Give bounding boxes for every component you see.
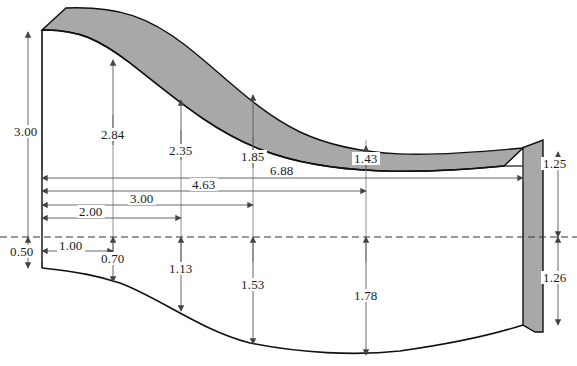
dim-label-1.25: 1.25 — [541, 157, 569, 170]
dim-label-2.35: 2.35 — [167, 144, 195, 157]
dim-label-1.85: 1.85 — [239, 150, 267, 163]
horizontal-dims-group — [42, 178, 523, 251]
dim-label-1.26: 1.26 — [541, 271, 569, 284]
dim-label-0.50: 0.50 — [8, 245, 36, 258]
body-outline-group — [42, 30, 523, 353]
dim-label-h-2.00: 2.00 — [77, 205, 105, 218]
dim-label-2.84: 2.84 — [99, 128, 127, 141]
dim-label-3.00: 3.00 — [12, 125, 40, 138]
dim-label-h-4.63: 4.63 — [190, 178, 218, 191]
dim-label-1.43: 1.43 — [352, 152, 380, 165]
dim-label-h-6.88: 6.88 — [268, 164, 296, 177]
lower-surface-curve — [42, 268, 523, 353]
drawing-svg — [0, 0, 577, 366]
dim-label-1.53: 1.53 — [239, 278, 267, 291]
dim-label-h-3.00: 3.00 — [128, 192, 156, 205]
dim-label-1.78: 1.78 — [352, 289, 380, 302]
dim-label-h-1.00: 1.00 — [57, 239, 85, 252]
dim-label-0.70: 0.70 — [99, 252, 127, 265]
lower-vertical-dims-group — [28, 237, 366, 355]
technical-drawing-canvas: 3.00 2.84 2.35 1.85 1.43 0.50 0.70 1.13 … — [0, 0, 577, 366]
dim-label-1.13: 1.13 — [167, 262, 195, 275]
